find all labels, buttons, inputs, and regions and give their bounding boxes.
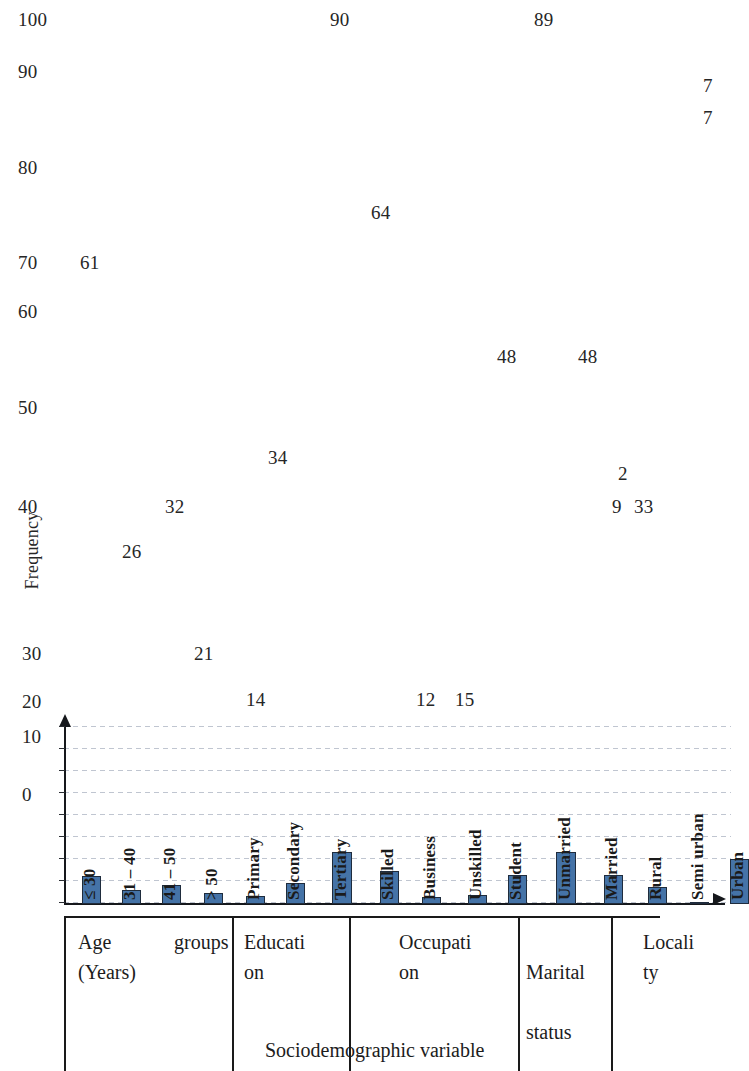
group-occupation-primary-label: Occupati (399, 928, 471, 957)
floating-value-label: 20 (22, 692, 41, 711)
floating-value-label: 32 (165, 497, 184, 516)
floating-value-label: 48 (497, 347, 516, 366)
bar-label-occ-student: Student (507, 842, 524, 900)
floating-value-label: 60 (18, 302, 37, 321)
floating-value-label: 14 (246, 690, 265, 709)
gridline (64, 748, 731, 749)
group-locality-primary-label: Locali (643, 928, 694, 957)
bar-label-age-le-30: ≤ 30 (81, 869, 98, 900)
floating-value-label: 100 (18, 10, 47, 29)
plot-area: ≤ 3031 – 4041 – 50> 50PrimarySecondaryTe… (64, 712, 731, 910)
floating-value-label: 9 (612, 497, 622, 516)
group-age: Agegroups(Years) (64, 916, 232, 1071)
floating-value-label: 89 (534, 10, 553, 29)
floating-value-label: 15 (455, 690, 474, 709)
floating-value-label: 33 (634, 497, 653, 516)
bar-loc-semiurban (690, 902, 709, 904)
bar-label-edu-tertiary: Tertiary (332, 839, 349, 900)
group-marital: Maritalstatus (518, 916, 611, 1071)
bar-label-loc-rural: Rural (647, 857, 664, 901)
floating-value-label: 12 (416, 690, 435, 709)
floating-value-label: 64 (371, 203, 390, 222)
bar-label-loc-semiurban: Semi urban (689, 813, 706, 900)
bar-label-age-41-50: 41 – 50 (161, 848, 178, 900)
floating-value-label: 2 (618, 464, 628, 483)
y-axis-tick-mark (59, 792, 65, 793)
group-divider (232, 916, 234, 1071)
bar-label-loc-urban: Urban (729, 852, 746, 900)
y-axis-tick-mark (59, 726, 65, 727)
floating-value-label: 7 (703, 76, 713, 95)
floating-value-label: 48 (578, 347, 597, 366)
floating-value-label: 21 (194, 644, 213, 663)
bar-label-occ-skilled: Skilled (379, 849, 396, 900)
y-axis-title: Frequency (22, 496, 43, 606)
floating-value-label: 50 (18, 398, 37, 417)
gridline (64, 792, 731, 793)
gridline (64, 814, 731, 815)
group-divider (64, 916, 66, 1071)
bar-label-mar-married: Married (603, 837, 620, 900)
floating-value-label: 70 (18, 253, 37, 272)
y-axis-tick-mark (59, 836, 65, 837)
y-axis-line (64, 718, 66, 905)
floating-value-label: 26 (122, 542, 141, 561)
bar-label-mar-unmarried: Unmarried (556, 817, 573, 900)
group-age-primary-label: Age (78, 928, 111, 957)
gridline (64, 836, 731, 837)
floating-value-label: 7 (703, 108, 713, 127)
group-divider (518, 916, 520, 1071)
floating-value-label: 90 (330, 10, 349, 29)
group-education-tertiary-label: on (244, 958, 264, 987)
group-marital-secondary-label: status (526, 1018, 572, 1047)
floating-value-label: 80 (18, 158, 37, 177)
y-axis-tick-mark (59, 748, 65, 749)
group-education-primary-label: Educati (244, 928, 305, 957)
x-axis-arrow-icon (713, 893, 726, 905)
gridline (64, 770, 731, 771)
y-axis-tick-mark (59, 814, 65, 815)
group-divider (611, 916, 613, 1071)
bar-label-occ-business: Business (421, 836, 438, 900)
y-axis-tick-label: 10 (22, 727, 41, 746)
group-age-secondary-label: groups (174, 928, 228, 957)
floating-value-label: 90 (18, 62, 37, 81)
group-locality-tertiary-label: ty (643, 958, 659, 987)
floating-value-label: 34 (268, 448, 287, 467)
bar-label-occ-unskilled: Unskilled (467, 829, 484, 900)
group-marital-primary-label: Marital (526, 958, 585, 987)
y-axis-tick-mark (59, 902, 65, 903)
bar-label-age-31-40: 31 – 40 (121, 848, 138, 900)
y-axis-tick-mark (59, 880, 65, 881)
group-locality: Locality (611, 916, 731, 1071)
y-axis-tick-mark (59, 770, 65, 771)
x-axis-title: Sociodemographic variable (265, 1039, 484, 1062)
floating-value-label: 30 (22, 644, 41, 663)
y-axis-tick-label: 0 (22, 785, 32, 804)
bar-label-edu-primary: Primary (245, 837, 262, 900)
gridline (64, 726, 731, 727)
group-age-tertiary-label: (Years) (78, 958, 136, 987)
floating-value-label: 61 (80, 253, 99, 272)
bar-label-edu-secondary: Secondary (285, 822, 302, 900)
bar-label-age-gt-50: > 50 (203, 868, 220, 900)
group-occupation-tertiary-label: on (399, 958, 419, 987)
y-axis-tick-mark (59, 858, 65, 859)
